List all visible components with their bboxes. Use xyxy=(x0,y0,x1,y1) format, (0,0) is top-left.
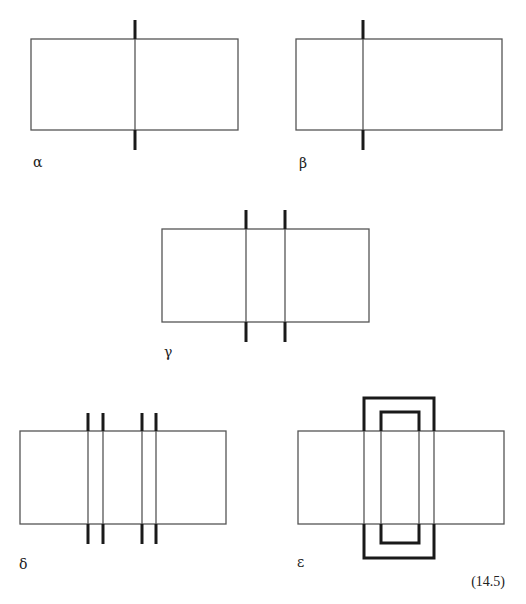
loop-bottom-cap xyxy=(364,524,434,558)
panel-delta: δ xyxy=(19,413,226,572)
panel-label-gamma: γ xyxy=(164,344,172,360)
panel-alpha: α xyxy=(31,20,238,170)
knot-diagram-figure: αβγδε (14.5) xyxy=(0,0,526,604)
panel-label-alpha: α xyxy=(33,154,43,170)
box-outline xyxy=(20,431,226,524)
loop-top-cap xyxy=(381,412,419,431)
panel-epsilon: ε xyxy=(297,398,504,570)
panel-label-beta: β xyxy=(299,155,307,171)
equation-number: (14.5) xyxy=(471,574,505,590)
box-outline xyxy=(162,229,369,322)
panel-gamma: γ xyxy=(162,210,369,360)
loop-bottom-cap xyxy=(381,524,419,543)
panel-label-delta: δ xyxy=(19,556,27,572)
box-outline xyxy=(296,39,502,130)
loop-top-cap xyxy=(364,398,434,431)
panel-beta: β xyxy=(296,20,502,171)
box-outline xyxy=(298,431,504,524)
panel-label-epsilon: ε xyxy=(297,554,304,570)
